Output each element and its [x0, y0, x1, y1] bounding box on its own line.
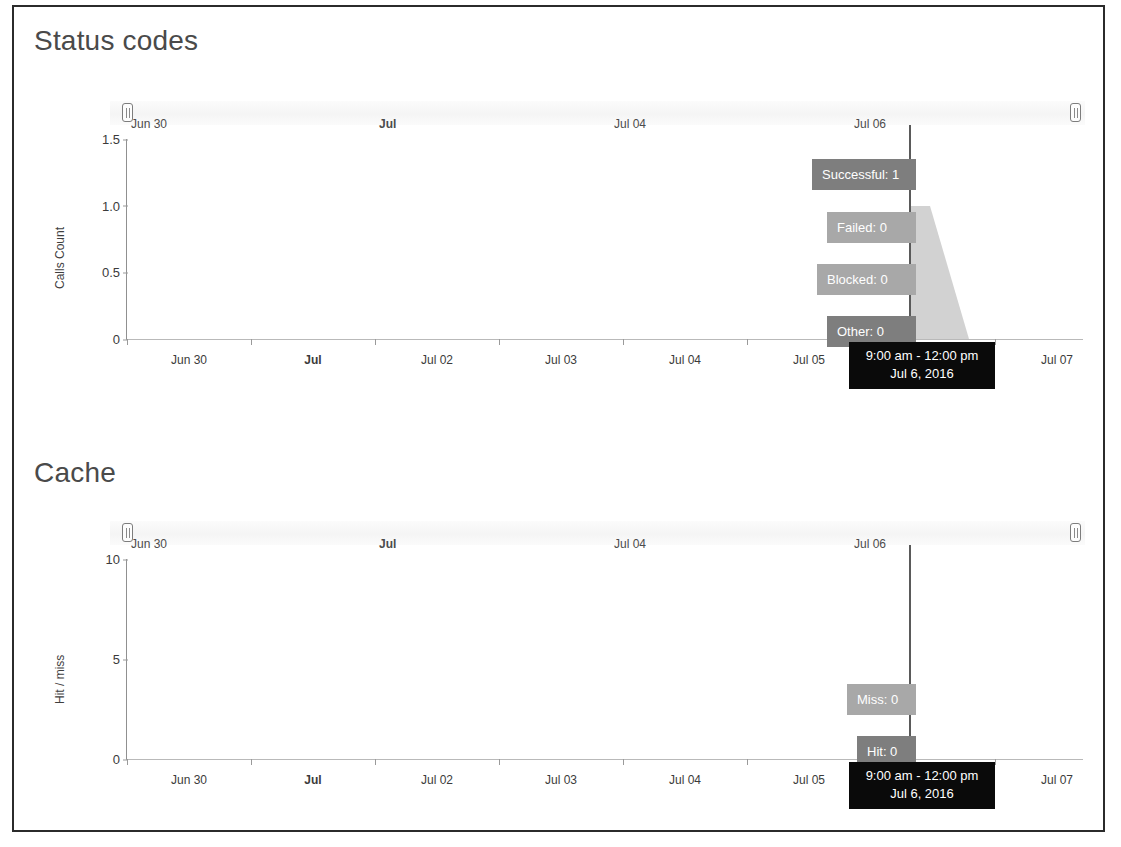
chart-cache: Jun 30 Jul Jul 04 Jul 06 Hit / miss 10 5…	[14, 515, 1103, 815]
crosshair-cache	[909, 545, 911, 760]
series-label-blocked: Blocked: 0	[817, 264, 916, 295]
chart-status-codes: Jun 30 Jul Jul 04 Jul 06 Calls Count 1.5…	[14, 95, 1103, 395]
y-axis-tick-5: 5	[113, 652, 120, 667]
x-tick-mark-cache-0	[127, 759, 128, 765]
x-axis-tick-cache-jul-04: Jul 04	[669, 773, 701, 787]
y-axis-tick-0-cache: 0	[113, 752, 120, 767]
range-selector-tick-3: Jul 06	[854, 117, 886, 131]
x-tick-mark-cache-2	[375, 759, 376, 765]
report-page: Status codes Jun 30 Jul Jul 04 Jul 06 Ca…	[12, 5, 1105, 832]
tooltip-cache: 9:00 am - 12:00 pm Jul 6, 2016	[849, 762, 995, 809]
x-axis-tick-jun-30: Jun 30	[171, 353, 207, 367]
x-tick-mark-2	[375, 339, 376, 345]
tooltip-time-range: 9:00 am - 12:00 pm	[861, 347, 983, 365]
series-area-status-codes	[909, 206, 969, 339]
y-axis-title-cache: Hit / miss	[53, 655, 67, 704]
x-tick-mark-3	[499, 339, 500, 345]
x-tick-mark-4	[623, 339, 624, 345]
tooltip-status-codes: 9:00 am - 12:00 pm Jul 6, 2016	[849, 342, 995, 389]
y-axis-tick-1_5: 1.5	[102, 132, 120, 147]
x-axis-tick-cache-jul-02: Jul 02	[421, 773, 453, 787]
series-label-miss: Miss: 0	[847, 684, 916, 715]
tooltip-date-cache: Jul 6, 2016	[861, 785, 983, 803]
x-tick-mark-cache-5	[747, 759, 748, 765]
brush-handle-right-cache[interactable]	[1070, 523, 1081, 542]
x-axis-tick-cache-jun-30: Jun 30	[171, 773, 207, 787]
page-title-cache: Cache	[34, 457, 116, 489]
plot-area-status-codes: Calls Count 1.5 1.0 0.5 0 Jun 30	[126, 139, 1083, 340]
range-selector-tick-0: Jun 30	[131, 117, 167, 131]
y-axis-tick-1_0: 1.0	[102, 198, 120, 213]
x-tick-mark-cache-3	[499, 759, 500, 765]
brush-handle-right-status-codes[interactable]	[1070, 103, 1081, 122]
x-axis-tick-jul-05: Jul 05	[793, 353, 825, 367]
panel-cache: Cache Jun 30 Jul Jul 04 Jul 06 Hit / mis…	[14, 427, 1103, 834]
range-selector-tick-cache-0: Jun 30	[131, 537, 167, 551]
x-axis-tick-jul-02: Jul 02	[421, 353, 453, 367]
x-tick-mark-0	[127, 339, 128, 345]
range-selector-tick-cache-2: Jul 04	[614, 537, 646, 551]
x-tick-mark-7	[995, 339, 996, 345]
x-axis-tick-cache-jul: Jul	[304, 773, 321, 787]
series-label-successful: Successful: 1	[812, 159, 916, 190]
x-tick-mark-5	[747, 339, 748, 345]
page-title-status-codes: Status codes	[34, 25, 198, 57]
range-selector-cache[interactable]	[110, 521, 1085, 545]
y-axis-tick-0: 0	[113, 332, 120, 347]
y-axis-tick-10: 10	[106, 552, 120, 567]
panel-status-codes: Status codes Jun 30 Jul Jul 04 Jul 06 Ca…	[14, 7, 1103, 427]
x-axis-tick-cache-jul-05: Jul 05	[793, 773, 825, 787]
range-selector-status-codes[interactable]	[110, 101, 1085, 125]
x-axis-tick-jul-03: Jul 03	[545, 353, 577, 367]
x-tick-mark-1	[251, 339, 252, 345]
range-selector-tick-2: Jul 04	[614, 117, 646, 131]
x-axis-tick-jul-07: Jul 07	[1041, 353, 1073, 367]
y-axis-title-status-codes: Calls Count	[53, 227, 67, 289]
x-axis-tick-cache-jul-07: Jul 07	[1041, 773, 1073, 787]
range-selector-tick-1: Jul	[379, 117, 396, 131]
tooltip-date: Jul 6, 2016	[861, 365, 983, 383]
plot-area-cache: Hit / miss 10 5 0 Jun 30 Jul Jul 02 Jul …	[126, 559, 1083, 760]
y-axis-tick-0_5: 0.5	[102, 265, 120, 280]
x-tick-mark-cache-7	[995, 759, 996, 765]
x-axis-tick-cache-jul-03: Jul 03	[545, 773, 577, 787]
range-selector-tick-cache-3: Jul 06	[854, 537, 886, 551]
series-label-failed: Failed: 0	[827, 212, 916, 243]
x-axis-tick-jul: Jul	[304, 353, 321, 367]
x-tick-mark-cache-1	[251, 759, 252, 765]
range-selector-tick-cache-1: Jul	[379, 537, 396, 551]
x-axis-tick-jul-04: Jul 04	[669, 353, 701, 367]
x-tick-mark-cache-4	[623, 759, 624, 765]
tooltip-time-range-cache: 9:00 am - 12:00 pm	[861, 767, 983, 785]
